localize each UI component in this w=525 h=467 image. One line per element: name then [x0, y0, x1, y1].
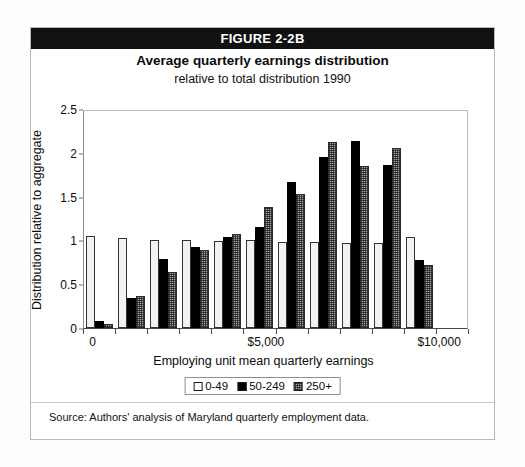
y-tick-mark [79, 241, 83, 242]
bar-0-49 [214, 241, 223, 328]
bar-50-249 [191, 247, 200, 328]
bar-250plus [232, 234, 241, 328]
bar-group [307, 111, 339, 328]
bar-group [212, 111, 244, 328]
chart-subtitle: relative to total distribution 1990 [31, 71, 494, 87]
x-tick-mark [83, 329, 84, 334]
bar-50-249 [319, 157, 328, 328]
title-block: Average quarterly earnings distribution … [31, 53, 494, 87]
y-tick-mark [79, 153, 83, 154]
legend-item: 0-49 [193, 380, 228, 392]
x-tick-label: $5,000 [248, 335, 285, 349]
bar-0-49 [182, 240, 191, 328]
bar-250plus [168, 272, 177, 328]
legend-label: 0-49 [205, 380, 228, 392]
y-axis-title: Distribution relative to aggregate [29, 110, 45, 329]
x-axis-title: Employing unit mean quarterly earnings [31, 354, 496, 368]
bar-250plus [328, 142, 337, 328]
y-tick-mark [79, 110, 83, 111]
source-note: Source: Authors' analysis of Maryland qu… [49, 411, 369, 423]
bar-group [403, 111, 435, 328]
bar-series-container [84, 111, 467, 328]
bar-250plus [296, 194, 305, 328]
bar-250plus [360, 166, 369, 328]
bar-250plus [424, 265, 433, 328]
source-divider [31, 402, 494, 403]
x-tick-mark [147, 329, 148, 334]
x-tick-mark [372, 329, 373, 334]
legend-swatch-icon [294, 382, 303, 391]
x-tick-mark [308, 329, 309, 334]
bar-group [116, 111, 148, 328]
bar-50-249 [287, 182, 296, 328]
legend-swatch-icon [193, 382, 202, 391]
bar-50-249 [223, 237, 232, 328]
bar-0-49 [310, 242, 319, 328]
bar-0-49 [278, 242, 287, 328]
bar-group [339, 111, 371, 328]
bar-0-49 [118, 238, 127, 328]
x-tick-mark [243, 329, 244, 334]
x-tick-mark [115, 329, 116, 334]
bar-group [244, 111, 276, 328]
plot-wrapper: Distribution relative to aggregate 2.521… [31, 104, 496, 364]
legend-label: 50-249 [249, 380, 285, 392]
bar-50-249 [383, 165, 392, 328]
legend-item: 50-249 [237, 380, 285, 392]
bar-0-49 [150, 240, 159, 328]
bar-50-249 [351, 141, 360, 328]
bar-250plus [104, 324, 113, 328]
x-tick-mark [340, 329, 341, 334]
figure-header-bar: FIGURE 2-2B [31, 28, 494, 49]
bar-250plus [392, 148, 401, 328]
figure-container: FIGURE 2-2B Average quarterly earnings d… [30, 27, 495, 440]
bar-50-249 [255, 227, 264, 328]
figure-number-label: FIGURE 2-2B [220, 31, 304, 46]
bar-50-249 [127, 298, 136, 328]
bar-group [180, 111, 212, 328]
y-axis-title-text: Distribution relative to aggregate [30, 130, 44, 310]
bar-0-49 [374, 243, 383, 328]
bar-group [435, 111, 467, 328]
bar-group [84, 111, 116, 328]
chart-legend: 0-4950-249250+ [184, 377, 341, 395]
bar-0-49 [86, 236, 95, 328]
bar-group [148, 111, 180, 328]
y-tick-mark [79, 285, 83, 286]
chart-title: Average quarterly earnings distribution [31, 53, 494, 70]
bar-group [276, 111, 308, 328]
x-tick-mark [404, 329, 405, 334]
bar-250plus [264, 207, 273, 328]
plot-area [83, 110, 468, 329]
x-tick-mark [179, 329, 180, 334]
x-tick-mark [436, 329, 437, 334]
legend-swatch-icon [237, 382, 246, 391]
x-tick-mark [276, 329, 277, 334]
bar-0-49 [246, 240, 255, 328]
bar-0-49 [406, 237, 415, 328]
bar-250plus [136, 296, 145, 328]
bar-50-249 [415, 260, 424, 328]
figure-page: FIGURE 2-2B Average quarterly earnings d… [0, 0, 525, 467]
bar-0-49 [342, 243, 351, 328]
x-tick-label: 0 [89, 335, 96, 349]
legend-label: 250+ [306, 380, 332, 392]
bar-50-249 [95, 321, 104, 328]
y-tick-mark [79, 197, 83, 198]
x-tick-label: $10,000 [417, 335, 460, 349]
bar-50-249 [159, 259, 168, 328]
x-tick-mark [211, 329, 212, 334]
x-axis-tick-labels: 0$5,000$10,000 [83, 335, 468, 351]
bar-250plus [200, 250, 209, 328]
bar-group [371, 111, 403, 328]
x-tick-mark [468, 329, 469, 334]
legend-item: 250+ [294, 380, 332, 392]
